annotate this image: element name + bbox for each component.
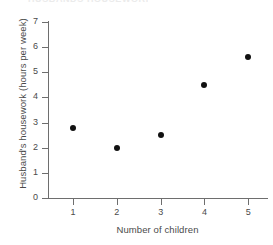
y-axis-label: Husband's housework (hours per week)	[17, 14, 28, 194]
y-tick-label: 5	[22, 67, 38, 76]
y-tick-mark	[42, 173, 48, 174]
x-axis-label: Number of children	[45, 224, 270, 235]
x-tick-label: 2	[109, 208, 125, 217]
y-tick-mark	[42, 47, 48, 48]
y-tick-label: 6	[22, 42, 38, 51]
x-tick-label: 1	[65, 208, 81, 217]
y-tick-label: 4	[22, 92, 38, 101]
data-point	[114, 145, 120, 151]
y-tick-label: 0	[22, 193, 38, 202]
y-tick-mark	[42, 22, 48, 23]
x-tick-label: 3	[153, 208, 169, 217]
x-tick-mark	[248, 199, 249, 205]
y-tick-mark	[42, 97, 48, 98]
data-point	[158, 132, 164, 138]
y-tick-mark	[42, 148, 48, 149]
y-tick-mark	[42, 72, 48, 73]
y-tick-label: 2	[22, 143, 38, 152]
y-tick-label: 7	[22, 17, 38, 26]
scatter-plot-figure: HUSBANDS HOUSEWORK Husband's housework (…	[0, 0, 273, 245]
x-tick-mark	[161, 199, 162, 205]
plot-area	[49, 22, 268, 198]
data-point	[70, 125, 76, 131]
x-tick-label: 4	[196, 208, 212, 217]
x-axis-line	[48, 198, 268, 199]
x-tick-mark	[73, 199, 74, 205]
y-tick-mark	[42, 198, 48, 199]
x-tick-label: 5	[240, 208, 256, 217]
y-tick-label: 1	[22, 168, 38, 177]
clipped-title-text: HUSBANDS HOUSEWORK	[28, 0, 148, 2]
y-tick-mark	[42, 123, 48, 124]
x-tick-mark	[117, 199, 118, 205]
x-tick-mark	[204, 199, 205, 205]
y-tick-label: 3	[22, 118, 38, 127]
